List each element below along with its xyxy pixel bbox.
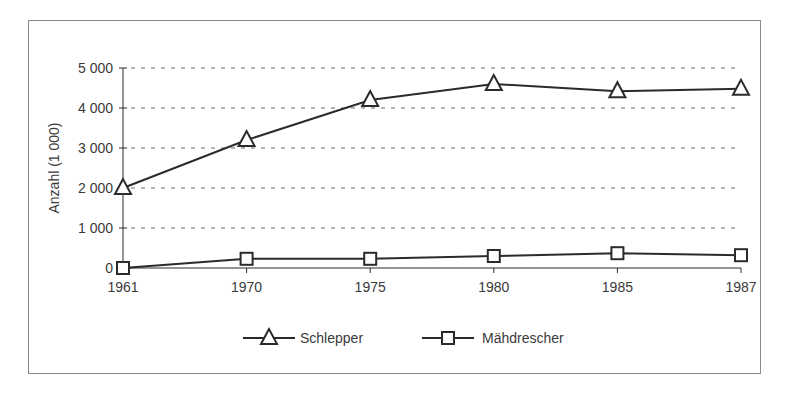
triangle-marker-icon [261,329,277,344]
square-marker-icon [117,262,129,274]
triangle-marker-icon [486,75,502,90]
square-marker-icon [241,253,253,265]
y-axis-ticks: 01 0002 0003 0004 0005 000 [78,60,127,276]
x-tick-label: 1975 [355,279,386,295]
line-chart: 01 0002 0003 0004 0005 000 1961197019751… [0,0,791,404]
legend: SchlepperMähdrescher [243,329,564,346]
triangle-marker-icon [609,82,625,97]
legend-item: Schlepper [243,329,363,346]
x-tick-label: 1970 [231,279,262,295]
square-marker-icon [364,253,376,265]
x-tick-label: 1980 [478,279,509,295]
square-marker-icon [611,247,623,259]
series-line [123,253,741,268]
series-line [123,84,741,188]
legend-label: Mähdrescher [482,330,564,346]
x-tick-label: 1987 [725,279,756,295]
x-axis-ticks: 196119701975198019851987 [107,268,756,295]
triangle-marker-icon [733,80,749,95]
square-marker-icon [735,249,747,261]
legend-item: Mähdrescher [422,330,564,346]
data-series [115,75,749,274]
x-tick-label: 1985 [602,279,633,295]
axes [123,68,741,268]
y-tick-label: 1 000 [78,220,113,236]
y-axis-label: Anzahl (1 000) [46,122,62,213]
y-tick-label: 0 [105,260,113,276]
square-marker-icon [488,250,500,262]
y-tick-label: 2 000 [78,180,113,196]
square-marker-icon [442,332,454,344]
x-tick-label: 1961 [107,279,138,295]
y-tick-label: 4 000 [78,100,113,116]
legend-label: Schlepper [300,330,363,346]
series-schlepper [115,75,749,194]
y-tick-label: 3 000 [78,140,113,156]
series-mähdrescher [117,247,747,274]
y-tick-label: 5 000 [78,60,113,76]
